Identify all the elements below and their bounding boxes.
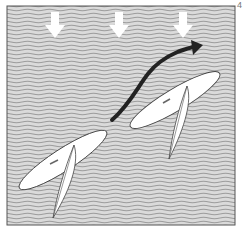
water-background — [7, 6, 235, 225]
figure-number: 4 — [237, 0, 242, 10]
windsurf-diagram — [0, 0, 245, 235]
